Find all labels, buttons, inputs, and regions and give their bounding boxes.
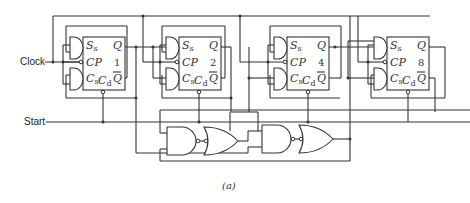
flip-flop-2: Ss CP Cs Cd Q 2 Q [142,15,233,124]
flip-flop-4: Ss CP Cs Cd Q 4 Q [239,15,386,124]
figure-caption: (a) [222,180,236,191]
svg-text:Q: Q [417,39,426,52]
nand-gate-1-icon [167,127,196,155]
svg-text:Q: Q [113,72,122,85]
or-gate-1-icon [204,127,238,155]
clear-and-gate-icon [274,68,287,90]
flip-flop-index: 1 [114,57,120,68]
set-and-gate-icon [374,37,387,59]
svg-text:Q: Q [317,72,326,85]
counter-circuit-diagram: Clock Start Ss CP [0,0,470,203]
set-and-gate-icon [166,37,179,59]
svg-text:CP: CP [182,56,198,69]
flip-flop-index: 8 [418,57,424,68]
svg-text:CP: CP [390,56,406,69]
svg-text:Q: Q [317,39,326,52]
clear-and-gate-icon [166,68,179,90]
svg-text:Q: Q [417,72,426,85]
svg-text:CP: CP [86,56,102,69]
clock-input-label: Clock [20,56,46,67]
svg-text:CP: CP [290,56,306,69]
set-and-gate-icon [70,37,83,59]
clear-and-gate-icon [374,68,387,90]
set-and-gate-icon [274,37,287,59]
flip-flop-8: Ss CP Cs Cd Q 8 Q [347,16,446,122]
start-input-label: Start [24,116,45,127]
nand-gate-2-icon [262,125,291,153]
or-gate-2-icon [299,125,333,153]
flip-flop-index: 2 [210,57,216,68]
flip-flop-index: 4 [318,57,324,68]
svg-text:Q: Q [113,39,122,52]
clear-and-gate-icon [70,68,83,90]
svg-text:Q: Q [209,72,218,85]
svg-text:Q: Q [209,39,218,52]
